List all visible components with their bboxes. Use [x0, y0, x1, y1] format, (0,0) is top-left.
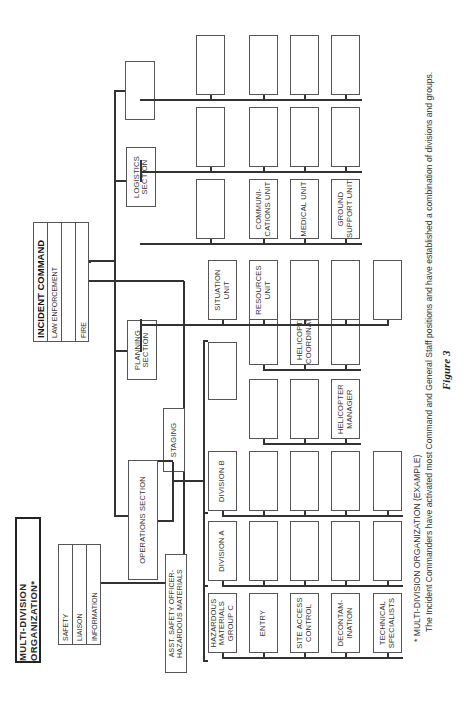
incident-command-box: INCIDENT COMMAND LAW ENFORCEMENT FIRE [33, 222, 89, 342]
connector [114, 180, 126, 182]
hazmat-group-unit-box-label: HAZARDOUS MATERIALS GROUP C [210, 594, 235, 652]
logistics-unit-box: MEDICAL UNIT [290, 179, 319, 239]
general-staff-bar [114, 261, 116, 517]
hazmat-group-unit-box: SITE ACCESS CONTROL [290, 593, 319, 653]
connector [387, 581, 389, 587]
connector [263, 439, 265, 445]
connector [345, 320, 347, 326]
connector [345, 581, 347, 587]
division-a-unit-box: DIVISION A [208, 521, 237, 581]
planning-unit-box: RESOURCES UNIT [249, 260, 278, 320]
planning-unit-box: SITUATION UNIT [208, 260, 237, 320]
connector [263, 95, 265, 101]
asst-safety-officer-label: ASST. SAFETY OFFICER-HAZARDOUS MATERIALS [168, 555, 183, 672]
logistics-unit-box [196, 179, 225, 239]
planning-section-box: PLANNING SECTION [127, 320, 157, 380]
planning-unit-box-label: RESOURCES UNIT [255, 261, 272, 319]
incident-command-label: INCIDENT COMMAND [34, 223, 48, 341]
connector [263, 365, 265, 371]
logistics-unit-box-label: GROUND SUPPORT UNIT [337, 180, 354, 238]
connector [345, 439, 347, 445]
connector [345, 365, 347, 371]
air-ops-unit-box [290, 379, 319, 439]
connector [140, 243, 362, 245]
command-staff-box: SAFETY LIAISON INFORMATION [58, 544, 101, 645]
safety-label: SAFETY [59, 545, 73, 644]
division-b-unit-box [290, 451, 319, 511]
connector [304, 439, 306, 445]
connector [158, 520, 173, 522]
division-b-unit-box [331, 451, 360, 511]
caption-line-1: * MULTI-DIVISION ORGANIZATION (EXAMPLE) [412, 455, 422, 642]
hazmat-group-unit-box-label: TECHNICAL SPECIALISTS [379, 594, 396, 652]
division-a-unit-box [249, 521, 278, 581]
connector [345, 653, 347, 659]
connector [304, 239, 306, 245]
connector [140, 99, 362, 101]
connector [114, 515, 128, 517]
hazmat-group-unit-box: ENTRY [249, 593, 278, 653]
operations-section-box: OPERATIONS SECTION [128, 460, 158, 580]
unnamed-unit-box [331, 35, 360, 95]
fire-label: FIRE [76, 223, 90, 341]
unnamed-section-box [125, 61, 155, 120]
operations-section-label: OPERATIONS SECTION [139, 476, 147, 564]
general-staff-bar [114, 92, 116, 182]
hazmat-group-unit-box-label: DECONTAM-INATION [337, 594, 354, 652]
logistics-upper-unit-box [249, 107, 278, 167]
connector [172, 480, 204, 482]
connector [263, 320, 265, 326]
connector [222, 581, 224, 587]
connector [140, 319, 142, 352]
logistics-upper-unit-box [290, 107, 319, 167]
connector [172, 462, 174, 522]
connector [140, 160, 142, 182]
planning-unit-box-label: SITUATION UNIT [214, 261, 231, 319]
division-b-unit-box: DIVISION B [208, 451, 237, 511]
connector [114, 181, 116, 262]
connector [210, 167, 212, 173]
division-a-unit-box-label: DIVISION A [218, 530, 226, 572]
connector [345, 239, 347, 245]
connector [263, 653, 265, 659]
blank-agency-row [62, 223, 76, 341]
connector [222, 653, 224, 659]
chart-title-text: MULTI-DIVISION ORGANIZATION* [17, 519, 39, 661]
connector [210, 239, 212, 245]
logistics-unit-box: GROUND SUPPORT UNIT [331, 179, 360, 239]
air-ops-unit-box [249, 379, 278, 439]
connector [345, 95, 347, 101]
connector [345, 167, 347, 173]
connector [387, 320, 389, 326]
connector [158, 460, 173, 462]
connector [140, 171, 362, 173]
connector [304, 511, 306, 517]
hazmat-group-unit-box: TECHNICAL SPECIALISTS [373, 593, 402, 653]
air-ops-unit-box: HELICOPTER MANAGER [331, 379, 360, 439]
caption-line-2: The Incident Commanders have activated m… [424, 72, 434, 632]
law-enforcement-label: LAW ENFORCEMENT [48, 223, 62, 341]
unnamed-unit-box [290, 35, 319, 95]
connector [222, 320, 224, 326]
planning-unit-box [290, 260, 319, 320]
document-page: MULTI-DIVISION ORGANIZATION* INCIDENT CO… [0, 0, 474, 702]
connector [387, 653, 389, 659]
connector [89, 260, 114, 262]
connector [114, 350, 127, 352]
connector [203, 660, 208, 662]
connector [263, 581, 265, 587]
hazmat-group-unit-box-label: SITE ACCESS CONTROL [296, 594, 313, 652]
division-a-unit-box [373, 521, 402, 581]
unnamed-unit-box [196, 35, 225, 95]
division-a-unit-box [290, 521, 319, 581]
division-b-unit-box-label: DIVISION B [218, 460, 226, 502]
logistics-upper-unit-box [331, 107, 360, 167]
connector [222, 515, 403, 517]
connector [304, 320, 306, 326]
planning-unit-box [331, 260, 360, 320]
air-ops-unit-box-label: HELICOPTER MANAGER [337, 380, 354, 438]
connector [304, 95, 306, 101]
connector [304, 365, 306, 371]
logistics-upper-unit-box [196, 107, 225, 167]
connector [210, 95, 212, 101]
